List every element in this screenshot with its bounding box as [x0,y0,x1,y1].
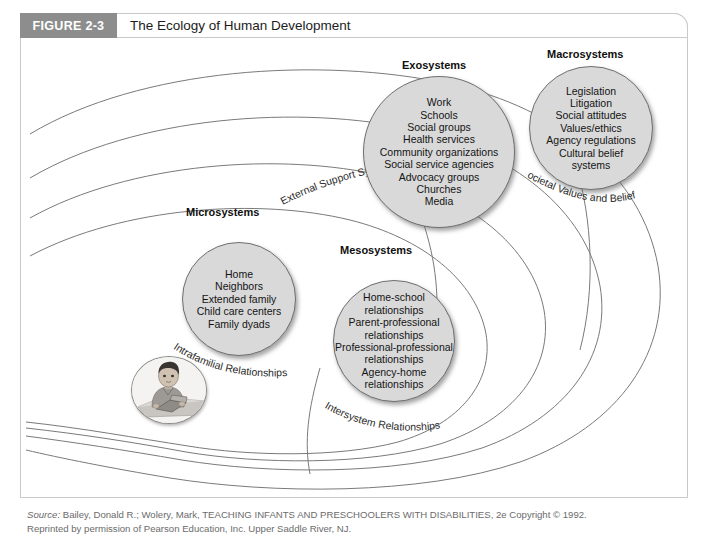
bubble-exosystems-items: WorkSchoolsSocial groupsHealth servicesC… [376,96,502,208]
bubble-item: Schools [380,109,498,121]
figure-title: The Ecology of Human Development [117,13,688,38]
bubble-item: Churches [380,183,498,195]
heading-microsystems: Microsystems [186,206,259,218]
bubble-item: Home-school [335,291,453,303]
source-line-1: Source: Bailey, Donald R.; Wolery, Mark,… [27,508,687,522]
bubble-microsystems[interactable]: HomeNeighborsExtended familyChild care c… [182,242,296,356]
bubble-macrosystems-items: LegislationLitigationSocial attitudesVal… [542,85,639,172]
bubble-item: Home [197,268,282,280]
bubble-item: Social service agencies [380,158,498,170]
bubble-item: Cultural belief [546,147,635,159]
bubble-item: Legislation [546,85,635,97]
bubble-mesosystems[interactable]: Home-schoolrelationshipsParent-professio… [333,280,455,402]
heading-exosystems: Exosystems [402,59,466,71]
bubble-exosystems[interactable]: WorkSchoolsSocial groupsHealth servicesC… [363,76,515,228]
bubble-item: Extended family [197,293,282,305]
bubble-item: Community organizations [380,146,498,158]
source-prefix: Source: [27,509,60,520]
bubble-item: Work [380,96,498,108]
bubble-item: Agency-home [335,366,453,378]
bubble-item: Social attitudes [546,109,635,121]
bubble-item: relationships [335,378,453,390]
bubble-item: Values/ethics [546,122,635,134]
bubble-item: Agency regulations [546,134,635,146]
bubble-item: Professional-professional [335,341,453,353]
bubble-item: Family dyads [197,318,282,330]
child-reading-icon [132,357,206,423]
bubble-item: Child care centers [197,305,282,317]
bubble-item: relationships [335,304,453,316]
bubble-item: Advocacy groups [380,171,498,183]
connector-mesosystems [307,368,320,474]
bubble-item: Neighbors [197,280,282,292]
bubble-item: systems [546,159,635,171]
heading-mesosystems: Mesosystems [340,244,412,256]
source-caption: Source: Bailey, Donald R.; Wolery, Mark,… [27,508,687,536]
bubble-item: Litigation [546,97,635,109]
bubble-mesosystems-items: Home-schoolrelationshipsParent-professio… [331,291,457,390]
bubble-item: Parent-professional [335,316,453,328]
source-line-1-text: Bailey, Donald R.; Wolery, Mark, TEACHIN… [60,509,587,520]
source-line-2: Reprinted by permission of Pearson Educa… [27,522,687,536]
child-reading-photo [131,356,207,424]
bubble-microsystems-items: HomeNeighborsExtended familyChild care c… [193,268,286,330]
figure-header: FIGURE 2-3 The Ecology of Human Developm… [20,13,688,38]
arc-label-intersystem-relationships: Intersystem Relationships [323,399,440,433]
arc-exo [26,117,602,470]
bubble-item: Social groups [380,121,498,133]
bubble-item: Health services [380,133,498,145]
heading-macrosystems: Macrosystems [547,48,623,60]
bubble-item: relationships [335,329,453,341]
bubble-item: relationships [335,353,453,365]
bubble-item: Media [380,195,498,207]
bubble-macrosystems[interactable]: LegislationLitigationSocial attitudesVal… [529,66,653,190]
ecology-diagram: External Support Systems Societal Values… [20,38,688,498]
figure-number-badge: FIGURE 2-3 [20,13,117,38]
